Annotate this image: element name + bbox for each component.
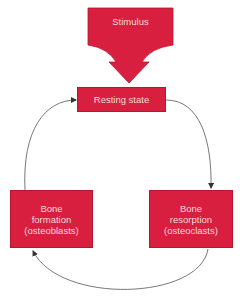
node-bone-resorption-line-2: resorption [164,214,218,225]
node-resting-state: Resting state [77,87,166,112]
arrow-resorption-to-formation [33,249,208,289]
node-bone-resorption: Bone resorption (osteoclasts) [149,190,233,248]
stimulus-label: Stimulus [88,16,173,27]
node-bone-formation-line-1: Bone [24,203,78,214]
node-bone-resorption-line-1: Bone [164,203,218,214]
node-resting-state-label: Resting state [94,94,149,105]
node-bone-formation-line-2: formation [24,214,78,225]
connector-arrows [0,0,240,300]
arrow-formation-to-resting [25,100,76,190]
bone-remodeling-cycle-diagram: Stimulus Resting state Bone resorption (… [0,0,240,300]
node-bone-resorption-line-3: (osteoclasts) [164,225,218,236]
arrow-resting-to-resorption [166,100,211,188]
node-bone-formation-line-3: (osteoblasts) [24,225,78,236]
node-bone-formation: Bone formation (osteoblasts) [10,190,93,248]
